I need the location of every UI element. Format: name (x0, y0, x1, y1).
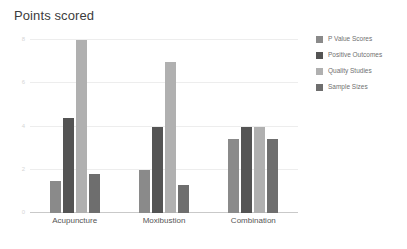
bar[interactable] (63, 118, 74, 213)
y-axis-tick-label: 2 (22, 166, 25, 172)
legend-label: Sample Sizes (328, 84, 368, 91)
legend-label: P Value Scores (328, 36, 372, 43)
bar[interactable] (152, 127, 163, 214)
legend-item[interactable]: P Value Scores (316, 31, 404, 47)
legend-swatch-icon (316, 84, 323, 91)
bar-group (209, 40, 298, 213)
bar[interactable] (254, 127, 265, 214)
legend-swatch-icon (316, 68, 323, 75)
y-axis-tick-label: 4 (22, 123, 25, 129)
chart-title: Points scored (14, 8, 94, 23)
legend-item[interactable]: Sample Sizes (316, 79, 404, 95)
x-axis-category-label: Combination (209, 216, 298, 225)
bar[interactable] (139, 170, 150, 213)
y-axis-tick-label: 0 (22, 209, 25, 215)
legend-item[interactable]: Positive Outcomes (316, 47, 404, 63)
bar[interactable] (76, 40, 87, 213)
bar[interactable] (241, 127, 252, 214)
x-axis-category-label: Moxibustion (119, 216, 208, 225)
bar[interactable] (50, 181, 61, 213)
bar-chart: Points scored 02468 AcupunctureMoxibusti… (0, 0, 407, 249)
y-axis-tick-label: 6 (22, 79, 25, 85)
bar[interactable] (178, 185, 189, 213)
bar[interactable] (165, 62, 176, 213)
y-axis-tick-label: 8 (22, 36, 25, 42)
bar[interactable] (267, 139, 278, 213)
bars-layer (30, 40, 298, 213)
chart-legend: P Value ScoresPositive OutcomesQuality S… (316, 31, 404, 95)
bar-group (30, 40, 119, 213)
bar[interactable] (89, 174, 100, 213)
x-axis-category-label: Acupuncture (30, 216, 119, 225)
x-axis-labels: AcupunctureMoxibustionCombination (30, 216, 298, 225)
legend-swatch-icon (316, 52, 323, 59)
legend-label: Quality Studies (328, 68, 372, 75)
legend-item[interactable]: Quality Studies (316, 63, 404, 79)
legend-label: Positive Outcomes (328, 52, 382, 59)
bar-group (119, 40, 208, 213)
legend-swatch-icon (316, 36, 323, 43)
plot-area: 02468 (30, 40, 298, 213)
bar[interactable] (228, 139, 239, 213)
